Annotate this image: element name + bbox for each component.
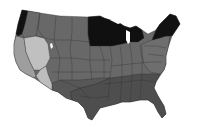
region-northern-new-england (152, 14, 180, 40)
us-choropleth-map (0, 0, 203, 127)
